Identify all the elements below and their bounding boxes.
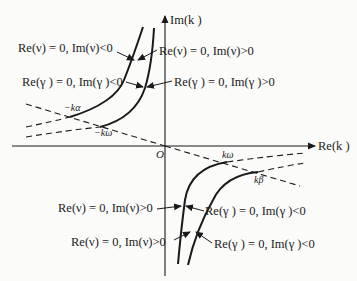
dashed-curve-right-lower — [258, 163, 305, 172]
point-label-k-omega: kω — [222, 150, 234, 160]
y-axis-label: Im(k ) — [170, 14, 202, 27]
arrow-upper-right-nu — [138, 50, 157, 60]
annotation-upper-right-nu: Re(ν) = 0, Im(ν)>0 — [159, 45, 254, 58]
arrow-lower-left-nu-1 — [157, 206, 181, 209]
dashed-curve-left-upper — [26, 117, 70, 127]
arrow-lower-right-gamma-1 — [186, 206, 204, 211]
dashed-curve-right-upper — [227, 153, 305, 162]
arrow-upper-left-gamma — [126, 82, 143, 87]
point-label-k-beta: kβ — [254, 175, 263, 185]
dashed-line-diagonal-left — [26, 104, 165, 146]
origin-label: O — [156, 149, 164, 160]
annotation-lower-left-nu-1: Re(ν) = 0, Im(ν)>0 — [58, 202, 153, 215]
point-label-neg-k-omega: −kω — [94, 128, 112, 138]
arrow-upper-right-gamma — [147, 81, 172, 87]
point-label-neg-k-alpha: −kα — [64, 103, 80, 113]
dashed-curve-left-lower — [26, 127, 100, 137]
annotation-lower-right-gamma-1: Re(γ ) = 0, Im(γ )<0 — [205, 205, 306, 218]
arrow-lower-right-gamma-2 — [196, 232, 212, 243]
annotation-upper-right-gamma: Re(γ ) = 0, Im(γ )>0 — [174, 76, 275, 89]
annotation-lower-left-nu-2: Re(ν) = 0, Im(ν)>0 — [71, 236, 166, 249]
annotation-upper-left-gamma: Re(γ ) = 0, Im(γ )<0 — [22, 76, 123, 89]
arrow-upper-left-nu — [117, 52, 134, 60]
x-axis-label: Re(k ) — [318, 140, 350, 153]
solid-curve-lower-right-outer — [188, 172, 258, 265]
annotation-lower-right-gamma-2: Re(γ ) = 0, Im(γ )<0 — [214, 238, 315, 251]
annotation-upper-left-nu: Re(ν) = 0, Im(ν)<0 — [18, 42, 113, 55]
